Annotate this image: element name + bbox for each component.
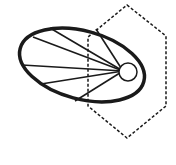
ray-line bbox=[50, 28, 123, 71]
ray-line bbox=[41, 71, 123, 84]
small-circle bbox=[119, 63, 137, 81]
diagram-canvas bbox=[0, 0, 176, 165]
